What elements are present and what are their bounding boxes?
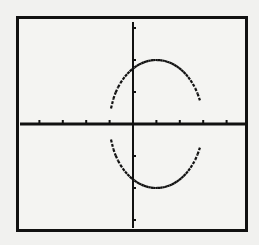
ellipse-lower-segment [191, 164, 193, 168]
ellipse-upper-segment [113, 92, 115, 98]
ellipse-upper-segment [174, 65, 176, 66]
ellipse-upper-segment [167, 62, 169, 63]
ellipse-upper-segment [127, 71, 129, 73]
ellipse-upper-segment [195, 88, 197, 93]
ellipse-upper-segment [188, 77, 190, 80]
x-tick [179, 120, 181, 124]
ellipse-upper-segment [132, 68, 134, 70]
ellipse-lower-segment [181, 176, 183, 178]
x-tick [155, 120, 157, 124]
x-tick [85, 120, 87, 124]
ellipse-lower-segment [167, 185, 169, 186]
ellipse-upper-segment [172, 64, 174, 65]
y-tick [133, 219, 136, 221]
ellipse-lower-segment [134, 180, 136, 182]
ellipse-upper-segment [116, 87, 118, 92]
ellipse-lower-segment [144, 186, 146, 187]
ellipse-upper-segment [162, 61, 164, 62]
ellipse-lower-segment [188, 168, 190, 171]
x-tick [38, 120, 40, 124]
y-tick [133, 91, 136, 93]
ellipse-upper-segment [141, 62, 143, 63]
ellipse-upper-segment [181, 70, 183, 72]
ellipse-upper-segment [179, 68, 181, 70]
ellipse-upper-segment [118, 83, 120, 87]
graph-plot [0, 0, 259, 245]
ellipse-lower-segment [141, 185, 143, 186]
ellipse-upper-segment [137, 65, 139, 66]
ellipse-lower-segment [116, 156, 118, 161]
ellipse-lower-segment [193, 160, 195, 164]
ellipse-upper-segment [170, 63, 172, 64]
ellipse-upper-segment [191, 80, 193, 84]
ellipse-lower-segment [113, 149, 115, 155]
y-tick [133, 187, 136, 189]
ellipse-upper-segment [111, 99, 113, 109]
ellipse-lower-segment [177, 180, 179, 182]
ellipse-lower-segment [184, 174, 186, 176]
ellipse-upper-segment [130, 69, 132, 71]
ellipse-lower-segment [186, 171, 188, 174]
ellipse-upper-segment [198, 94, 200, 101]
ellipse-lower-segment [162, 187, 164, 188]
ellipse-lower-segment [146, 186, 148, 187]
ellipse-upper-segment [184, 72, 186, 74]
ellipse-upper-segment [193, 84, 195, 88]
ellipse-lower-segment [118, 161, 120, 165]
ellipse-lower-segment [174, 182, 176, 183]
y-tick [133, 27, 136, 29]
ellipse-lower-segment [198, 148, 200, 155]
ellipse-upper-segment [165, 61, 167, 62]
ellipse-upper-segment [125, 74, 127, 77]
ellipse-upper-segment [186, 74, 188, 77]
y-tick [133, 155, 136, 157]
ellipse-lower-segment [165, 186, 167, 187]
ellipse-lower-segment [125, 172, 127, 175]
x-tick [226, 120, 228, 124]
ellipse-upper-segment [146, 61, 148, 62]
ellipse-lower-segment [172, 183, 174, 184]
ellipse-lower-segment [195, 154, 197, 159]
x-tick [62, 120, 64, 124]
ellipse-lower-segment [137, 182, 139, 183]
ellipse-upper-segment [139, 63, 141, 64]
ellipse-upper-segment [177, 66, 179, 68]
ellipse-lower-segment [111, 140, 113, 150]
x-tick [202, 120, 204, 124]
y-tick [133, 59, 136, 61]
ellipse-lower-segment [120, 165, 122, 169]
ellipse-lower-segment [170, 184, 172, 185]
ellipse-upper-segment [134, 66, 136, 68]
x-tick [109, 120, 111, 124]
ellipse-upper-segment [144, 62, 146, 63]
ellipse-lower-segment [132, 179, 134, 181]
ellipse-lower-segment [139, 183, 141, 184]
ellipse-upper-segment [120, 80, 122, 84]
ellipse-lower-segment [123, 168, 125, 171]
ellipse-lower-segment [130, 177, 132, 179]
ellipse-upper-segment [123, 76, 125, 79]
ellipse-lower-segment [127, 174, 129, 176]
ellipse-lower-segment [179, 178, 181, 180]
